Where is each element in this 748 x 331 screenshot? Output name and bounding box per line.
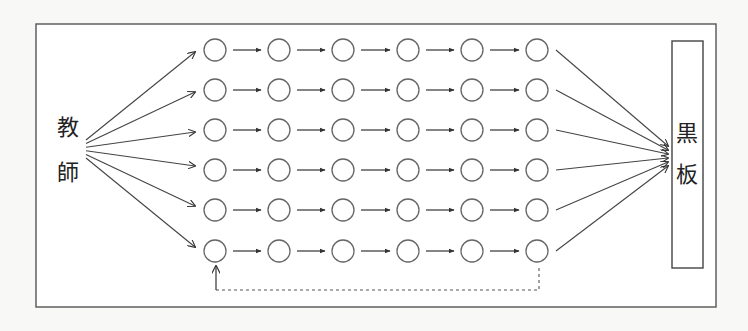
blackboard-box <box>672 41 703 268</box>
teacher-label-top: 教 <box>57 117 79 139</box>
outer-frame <box>36 24 716 307</box>
student-node <box>397 199 419 221</box>
student-node <box>268 119 290 141</box>
student-node <box>461 199 483 221</box>
student-node <box>461 119 483 141</box>
student-node <box>461 39 483 61</box>
student-node <box>461 240 483 262</box>
student-node <box>526 240 548 262</box>
student-node <box>526 199 548 221</box>
blackboard-label-bottom: 板 <box>676 164 698 186</box>
student-node <box>332 39 354 61</box>
student-node <box>204 159 226 181</box>
student-node <box>332 199 354 221</box>
student-node <box>397 159 419 181</box>
student-node <box>397 119 419 141</box>
student-node <box>204 39 226 61</box>
student-node <box>526 119 548 141</box>
teacher-blackboard-diagram <box>0 0 748 331</box>
student-node <box>204 79 226 101</box>
student-node <box>268 159 290 181</box>
student-node <box>397 79 419 101</box>
student-node <box>204 240 226 262</box>
student-node <box>461 159 483 181</box>
student-node <box>332 119 354 141</box>
student-node <box>332 240 354 262</box>
student-node <box>268 240 290 262</box>
student-node <box>268 199 290 221</box>
teacher-label-bottom: 師 <box>57 162 79 184</box>
student-node <box>526 79 548 101</box>
blackboard-label-top: 黒 <box>676 123 698 145</box>
student-node <box>332 159 354 181</box>
student-node <box>526 159 548 181</box>
student-node <box>461 79 483 101</box>
student-node <box>204 199 226 221</box>
student-node <box>526 39 548 61</box>
student-node <box>268 39 290 61</box>
student-node <box>268 79 290 101</box>
student-node <box>397 39 419 61</box>
student-node <box>397 240 419 262</box>
student-node <box>204 119 226 141</box>
student-node <box>332 79 354 101</box>
